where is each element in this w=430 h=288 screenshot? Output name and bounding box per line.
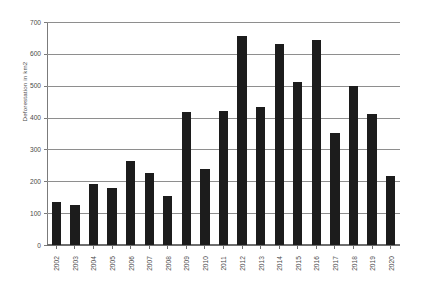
bar-2020[interactable] [386,22,395,245]
x-tick-label: 2003 [71,256,78,271]
x-tick-mark [242,246,243,249]
x-tick-slot: 2007 [140,246,159,288]
bar-2014[interactable] [275,22,284,245]
x-tick-label: 2012 [239,256,246,271]
bar-2003[interactable] [70,22,79,245]
bar-2010[interactable] [200,22,209,245]
x-tick-slot: 2015 [289,246,308,288]
x-tick-slot: 2005 [103,246,122,288]
x-tick-mark [74,246,75,249]
bar-rect [312,40,321,245]
bar-rect [237,36,246,245]
y-tick-label: 400 [7,114,41,121]
bar-2012[interactable] [237,22,246,245]
x-tick-label: 2013 [257,256,264,271]
x-tick-label: 2015 [294,256,301,271]
x-tick-slot: 2013 [251,246,270,288]
bar-rect [367,114,376,245]
x-tick-mark [316,246,317,249]
bar-rect [52,202,61,245]
y-tick-mark [44,118,47,119]
bar-rect [126,161,135,245]
x-tick-slot: 2016 [307,246,326,288]
bar-series [47,22,400,245]
bar-2018[interactable] [349,22,358,245]
bar-2002[interactable] [52,22,61,245]
bar-2006[interactable] [126,22,135,245]
bar-rect [107,188,116,245]
bar-rect [219,111,228,245]
x-tick-mark [297,246,298,249]
x-tick-label: 2005 [109,256,116,271]
bar-2004[interactable] [89,22,98,245]
bar-rect [256,107,265,245]
x-tick-label: 2016 [313,256,320,271]
bar-2007[interactable] [145,22,154,245]
bar-rect [275,44,284,245]
bar-rect [89,184,98,245]
x-tick-mark [279,246,280,249]
bar-2008[interactable] [163,22,172,245]
bar-2011[interactable] [219,22,228,245]
x-tick-slot: 2014 [270,246,289,288]
y-tick-label: 300 [7,146,41,153]
x-tick-slot: 2020 [381,246,400,288]
bar-2016[interactable] [312,22,321,245]
bar-2009[interactable] [182,22,191,245]
bar-rect [349,86,358,245]
bar-rect [163,196,172,245]
x-tick-mark [334,246,335,249]
x-tick-label: 2014 [276,256,283,271]
x-tick-slot: 2011 [214,246,233,288]
bar-rect [70,205,79,245]
y-tick-mark [44,86,47,87]
x-tick-slot: 2012 [233,246,252,288]
x-tick-label: 2009 [183,256,190,271]
x-tick-label: 2010 [201,256,208,271]
y-tick-label: 700 [7,19,41,26]
x-tick-slot: 2017 [326,246,345,288]
x-tick-label: 2004 [90,256,97,271]
bar-rect [182,112,191,245]
bar-rect [386,176,395,245]
y-tick-mark [44,54,47,55]
y-tick-label: 600 [7,50,41,57]
x-tick-label: 2020 [387,256,394,271]
x-tick-mark [186,246,187,249]
bar-2013[interactable] [256,22,265,245]
x-tick-slot: 2006 [121,246,140,288]
x-tick-label: 2007 [146,256,153,271]
x-tick-slot: 2010 [196,246,215,288]
bar-2019[interactable] [367,22,376,245]
x-tick-label: 2017 [331,256,338,271]
x-tick-mark [353,246,354,249]
x-tick-slot: 2004 [84,246,103,288]
y-tick-label: 100 [7,210,41,217]
y-tick-label: 0 [7,242,41,249]
x-tick-mark [149,246,150,249]
bar-2005[interactable] [107,22,116,245]
bar-rect [200,169,209,245]
bar-rect [330,133,339,245]
x-tick-slot: 2019 [363,246,382,288]
bar-rect [293,82,302,245]
bar-2015[interactable] [293,22,302,245]
x-tick-label: 2019 [369,256,376,271]
x-tick-label: 2011 [220,256,227,270]
bar-2017[interactable] [330,22,339,245]
y-tick-label: 500 [7,82,41,89]
x-tick-label: 2008 [164,256,171,271]
bar-rect [145,173,154,245]
x-tick-mark [93,246,94,249]
y-tick-label: 200 [7,178,41,185]
x-tick-label: 2002 [53,256,60,271]
y-tick-mark [44,22,47,23]
x-tick-mark [56,246,57,249]
x-tick-mark [260,246,261,249]
x-tick-label: 2006 [127,256,134,271]
y-tick-mark [44,213,47,214]
x-tick-slot: 2002 [47,246,66,288]
y-tick-mark [44,181,47,182]
x-tick-mark [167,246,168,249]
x-tick-mark [204,246,205,249]
